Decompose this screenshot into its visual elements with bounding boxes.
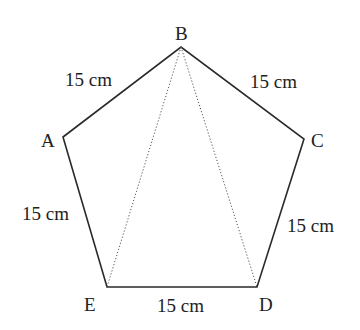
pentagon-diagram: A B C D E 15 cm 15 cm 15 cm 15 cm 15 cm [0,0,360,330]
side-label-ea: 15 cm [22,203,69,224]
vertex-label-c: C [311,130,324,151]
side-label-cd: 15 cm [287,215,334,236]
side-label-ab: 15 cm [65,69,112,90]
vertex-label-b: B [175,23,188,44]
vertex-label-d: D [259,294,273,315]
diagonal-BD [181,47,257,287]
vertex-label-e: E [84,294,96,315]
side-label-de: 15 cm [157,295,204,316]
side-label-bc: 15 cm [250,71,297,92]
diagonal-BE [107,47,181,287]
vertex-label-a: A [41,130,55,151]
